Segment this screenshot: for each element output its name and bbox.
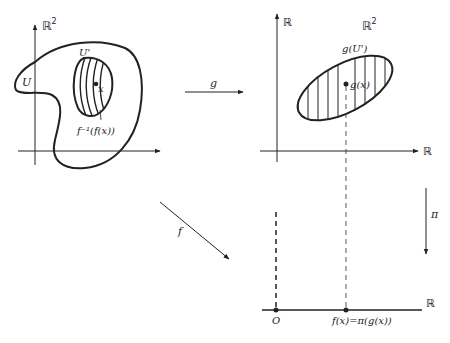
right-x-axis-label: ℝ [423, 145, 432, 158]
f-x-label: f(x)=π(g(x)) [331, 315, 392, 326]
region-U-label: U [22, 76, 32, 89]
origin-label: O [272, 315, 280, 326]
fiber-label: f⁻¹(f(x)) [76, 125, 115, 136]
left-plane: ℝ2 U U' x f⁻¹(f(x)) [15, 17, 160, 168]
arrow-pi-label: π [430, 208, 439, 221]
left-space-label: ℝ2 [42, 17, 57, 33]
right-y-axis-label: ℝ [283, 16, 292, 29]
arrow-g-label: g [210, 77, 217, 90]
image-label: g(U') [342, 43, 367, 54]
arrow-f-label: f [177, 225, 184, 238]
region-U-prime-label: U' [79, 47, 90, 58]
image-region-outline [288, 42, 402, 133]
f-x-point [344, 308, 349, 313]
map-f: f [160, 202, 229, 259]
point-g-x-label: g(x) [350, 79, 370, 90]
right-space-label: ℝ2 [362, 17, 377, 33]
bottom-real-line: ℝ O f(x)=π(g(x)) [262, 297, 435, 326]
arrow-f [160, 202, 229, 259]
bottom-axis-label: ℝ [426, 297, 435, 310]
point-x-label: x [98, 83, 104, 94]
point-g-x [344, 82, 349, 87]
fiber-projection-diagram: ℝ2 U U' x f⁻¹(f(x)) g f ℝ ℝ ℝ2 g(U') [0, 0, 450, 343]
region-U-outline [15, 42, 142, 168]
projection-pi: π [426, 188, 439, 254]
map-g: g [185, 77, 243, 92]
origin-point [274, 308, 279, 313]
